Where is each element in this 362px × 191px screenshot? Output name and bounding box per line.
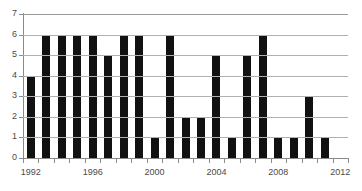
y-tick-label: 4 bbox=[0, 71, 17, 80]
x-tick-mark bbox=[178, 159, 179, 163]
gridline-6 bbox=[23, 35, 348, 36]
y-tick-mark bbox=[19, 96, 23, 97]
y-tick-mark bbox=[19, 76, 23, 77]
bar bbox=[274, 137, 282, 158]
x-tick-mark bbox=[131, 159, 132, 163]
x-tick-mark bbox=[209, 159, 210, 163]
bar bbox=[228, 137, 236, 158]
x-tick-label: 2004 bbox=[201, 167, 231, 177]
x-tick-mark bbox=[286, 159, 287, 163]
x-tick-mark bbox=[38, 159, 39, 163]
x-tick-mark bbox=[147, 159, 148, 163]
gridline-3 bbox=[23, 96, 348, 97]
bar-series bbox=[23, 14, 348, 158]
x-tick-label: 2000 bbox=[140, 167, 170, 177]
x-axis-line bbox=[23, 158, 349, 159]
y-tick-label: 6 bbox=[0, 30, 17, 39]
y-tick-label: 7 bbox=[0, 9, 17, 18]
y-tick-label: 3 bbox=[0, 91, 17, 100]
bar-chart: 01234567 199219962000200420082012 bbox=[0, 0, 362, 191]
x-tick-label: 2012 bbox=[325, 167, 355, 177]
x-tick-mark bbox=[69, 159, 70, 163]
x-tick-mark bbox=[255, 159, 256, 163]
y-tick-label: 5 bbox=[0, 50, 17, 59]
x-tick-mark bbox=[162, 159, 163, 163]
y-tick-label: 2 bbox=[0, 112, 17, 121]
gridline-7 bbox=[23, 14, 348, 15]
plot-area bbox=[23, 14, 348, 158]
y-tick-mark bbox=[19, 14, 23, 15]
x-tick-mark bbox=[317, 159, 318, 163]
x-tick-mark bbox=[333, 159, 334, 163]
bar bbox=[243, 55, 251, 158]
x-tick-mark bbox=[23, 159, 24, 163]
y-tick-label: 0 bbox=[0, 153, 17, 162]
bar bbox=[151, 137, 159, 158]
x-tick-mark bbox=[302, 159, 303, 163]
gridline-1 bbox=[23, 137, 348, 138]
x-tick-mark bbox=[116, 159, 117, 163]
x-tick-mark bbox=[193, 159, 194, 163]
x-tick-mark bbox=[54, 159, 55, 163]
x-tick-mark bbox=[85, 159, 86, 163]
y-tick-mark bbox=[19, 55, 23, 56]
x-tick-mark bbox=[100, 159, 101, 163]
y-tick-mark bbox=[19, 117, 23, 118]
bar bbox=[321, 137, 329, 158]
gridline-5 bbox=[23, 55, 348, 56]
bar bbox=[104, 55, 112, 158]
x-tick-label: 1996 bbox=[78, 167, 108, 177]
x-tick-label: 1992 bbox=[16, 167, 46, 177]
x-tick-mark bbox=[271, 159, 272, 163]
x-tick-label: 2008 bbox=[263, 167, 293, 177]
x-tick-mark bbox=[224, 159, 225, 163]
x-tick-mark bbox=[348, 159, 349, 163]
bar bbox=[212, 55, 220, 158]
bar bbox=[305, 96, 313, 158]
y-tick-label: 1 bbox=[0, 132, 17, 141]
bar bbox=[290, 137, 298, 158]
x-tick-mark bbox=[240, 159, 241, 163]
y-tick-mark bbox=[19, 137, 23, 138]
gridline-4 bbox=[23, 76, 348, 77]
y-tick-mark bbox=[19, 35, 23, 36]
gridline-2 bbox=[23, 117, 348, 118]
